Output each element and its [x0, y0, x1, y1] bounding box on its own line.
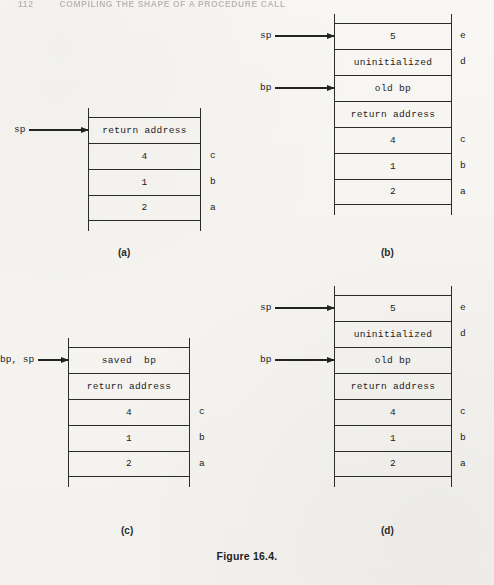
- stack-cell: return address: [68, 373, 190, 399]
- stack-cell-label: return address: [351, 381, 436, 391]
- stack-cell: 1: [68, 425, 190, 451]
- pointer-label: sp: [260, 31, 271, 41]
- stack-variable-label: b: [210, 177, 216, 187]
- stack-cell-label: return address: [87, 381, 172, 391]
- stack-cell: uninitialized: [334, 49, 452, 75]
- stack-cell: 1: [334, 425, 452, 451]
- stack-cell: old bp: [334, 347, 452, 373]
- stack-frame-a: cbareturn address412sp: [88, 108, 201, 231]
- stack-cell: 2: [88, 195, 201, 221]
- stack-cell-label: 1: [141, 177, 147, 187]
- running-header: 112COMPILING THE SHAPE OF A PROCEDURE CA…: [18, 0, 476, 10]
- stack-cell: 4: [88, 143, 201, 169]
- stack-variable-label: b: [460, 433, 466, 443]
- stack-diagram-a: cbareturn address412sp: [88, 108, 201, 231]
- running-header-text: COMPILING THE SHAPE OF A PROCEDURE CALL: [60, 0, 286, 9]
- stack-cell: return address: [88, 117, 201, 143]
- stack-pointer-sp-b: sp: [260, 30, 334, 42]
- stack-frame-b: edcba5uninitializedold bpreturn address4…: [334, 14, 452, 215]
- stack-cell-label: old bp: [375, 355, 411, 365]
- stack-diagram-d: edcba5uninitializedold bpreturn address4…: [334, 286, 452, 487]
- stack-cell: uninitialized: [334, 321, 452, 347]
- stack-variable-label: a: [210, 203, 216, 213]
- stack-variable-label: e: [460, 31, 466, 41]
- stack-cell: saved bp: [68, 347, 190, 373]
- stack-cell: 2: [68, 451, 190, 477]
- stack-frame-d: edcba5uninitializedold bpreturn address4…: [334, 286, 452, 487]
- stack-variable-label: a: [460, 187, 466, 197]
- stack-cells: return address412: [88, 117, 201, 221]
- pointer-arrow-icon: [275, 307, 334, 308]
- stack-pointer-bpsp-c: bp, sp: [0, 354, 68, 366]
- stack-cell-label: 2: [141, 203, 147, 213]
- stack-variable-label: c: [460, 135, 466, 145]
- stack-cell-label: 5: [390, 303, 396, 313]
- stack-variable-label: d: [460, 57, 466, 67]
- stack-cell: 1: [88, 169, 201, 195]
- pointer-label: bp: [260, 355, 271, 365]
- stack-cell-label: return address: [102, 125, 187, 135]
- stack-diagram-b: edcba5uninitializedold bpreturn address4…: [334, 14, 452, 215]
- stack-diagram-c: cbasaved bpreturn address412bp, sp: [68, 338, 190, 487]
- stack-variable-label: a: [460, 459, 466, 469]
- stack-cell-label: 5: [390, 31, 396, 41]
- stack-cell-label: return address: [351, 109, 436, 119]
- pointer-arrow-icon: [275, 359, 334, 360]
- stack-cell-label: 4: [126, 407, 132, 417]
- stack-variable-label: d: [460, 329, 466, 339]
- stack-cell: 5: [334, 295, 452, 321]
- stack-pointer-bp-d: bp: [260, 354, 334, 366]
- stack-variable-label: b: [460, 161, 466, 171]
- stack-frame-c: cbasaved bpreturn address412bp, sp: [68, 338, 190, 487]
- pointer-label: sp: [260, 303, 271, 313]
- stack-cell-label: 4: [390, 135, 396, 145]
- stack-variable-label: c: [460, 407, 466, 417]
- panel-caption-d: (d): [381, 526, 394, 536]
- pointer-arrow-icon: [275, 87, 334, 88]
- page-folio: 112: [18, 0, 34, 9]
- stack-cell: 1: [334, 153, 452, 179]
- stack-cell: old bp: [334, 75, 452, 101]
- pointer-label: sp: [14, 125, 25, 135]
- stack-cell-label: uninitialized: [354, 329, 433, 339]
- stack-variable-label: c: [210, 151, 216, 161]
- pointer-label: bp, sp: [0, 355, 34, 365]
- stack-cell-label: 1: [390, 161, 396, 171]
- pointer-arrow-icon: [38, 359, 68, 360]
- stack-cell-label: saved bp: [102, 355, 156, 365]
- panel-caption-a: (a): [118, 248, 130, 258]
- stack-variable-label: e: [460, 303, 466, 313]
- pointer-label: bp: [260, 83, 271, 93]
- stack-cell-label: 2: [126, 459, 132, 469]
- stack-pointer-sp-a: sp: [14, 124, 88, 136]
- stack-variable-label: b: [199, 433, 205, 443]
- stack-cell: 4: [334, 399, 452, 425]
- stack-variable-label: a: [199, 459, 205, 469]
- stack-cell-label: uninitialized: [354, 57, 433, 66]
- stack-cells: 5uninitializedold bpreturn address412: [334, 295, 452, 477]
- stack-cell: 4: [334, 127, 452, 153]
- stack-cell-label: 4: [141, 151, 147, 161]
- stack-cell: return address: [334, 373, 452, 399]
- stack-cell-label: old bp: [375, 83, 411, 93]
- panel-caption-b: (b): [381, 248, 394, 258]
- stack-cell: 4: [68, 399, 190, 425]
- stack-cells: 5uninitializedold bpreturn address412: [334, 23, 452, 205]
- panel-caption-c: (c): [121, 526, 133, 536]
- stack-pointer-sp-d: sp: [260, 302, 334, 314]
- pointer-arrow-icon: [275, 35, 334, 36]
- stack-pointer-bp-b: bp: [260, 82, 334, 94]
- stack-cell-label: 4: [390, 407, 396, 417]
- stack-cell: 5: [334, 23, 452, 49]
- stack-cell-label: 1: [390, 433, 396, 443]
- pointer-arrow-icon: [29, 129, 88, 130]
- figure-caption: Figure 16.4.: [0, 550, 494, 562]
- stack-cell: 2: [334, 179, 452, 205]
- stack-cell-label: 2: [390, 459, 396, 469]
- stack-variable-label: c: [199, 407, 205, 417]
- stack-cells: saved bpreturn address412: [68, 347, 190, 477]
- stack-cell-label: 2: [390, 187, 396, 197]
- stack-cell-label: 1: [126, 433, 132, 443]
- stack-cell: 2: [334, 451, 452, 477]
- stack-cell: return address: [334, 101, 452, 127]
